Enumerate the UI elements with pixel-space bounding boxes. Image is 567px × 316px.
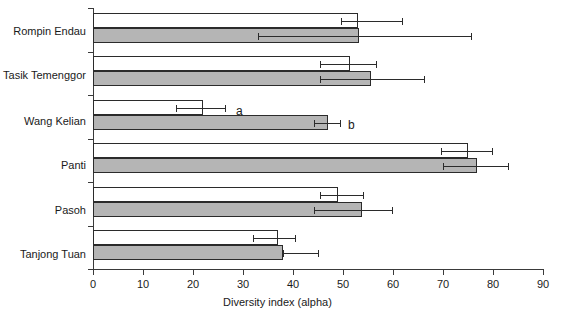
- xtick-mark-90: [543, 270, 544, 275]
- annotation-a: a: [236, 105, 243, 117]
- xtick-mark-20: [193, 270, 194, 275]
- xtick-mark-0: [93, 270, 94, 275]
- xtick-mark-80: [493, 270, 494, 275]
- xtick-mark-40: [293, 270, 294, 275]
- error-bar-cap: [225, 105, 226, 112]
- error-bar-cap: [471, 33, 472, 40]
- error-bar-line: [320, 79, 424, 80]
- error-bar-cap: [492, 148, 493, 155]
- error-bar-cap: [402, 18, 403, 25]
- bar-rompin-endau-white: [93, 13, 358, 28]
- ytick-mark-6: [88, 269, 93, 270]
- ytick-mark-3: [88, 139, 93, 140]
- chart-container: Rompin Endau Tasik Temenggor Wang Kelian…: [0, 0, 567, 316]
- xtick-mark-70: [443, 270, 444, 275]
- error-bar-cap: [340, 120, 341, 127]
- error-bar-cap: [424, 76, 425, 83]
- bar-pasoh-white: [93, 187, 338, 202]
- xtick-mark-50: [343, 270, 344, 275]
- xtick-label-10: 10: [128, 278, 158, 290]
- ytick-mark-2: [88, 95, 93, 96]
- error-bar-line: [314, 210, 392, 211]
- error-bar-cap: [320, 76, 321, 83]
- error-bar-cap: [314, 120, 315, 127]
- x-axis-title: Diversity index (alpha): [223, 296, 332, 308]
- xtick-mark-30: [243, 270, 244, 275]
- error-bar-cap: [392, 207, 393, 214]
- xtick-label-60: 60: [378, 278, 408, 290]
- xtick-label-80: 80: [478, 278, 508, 290]
- error-bar-line: [176, 108, 225, 109]
- bar-panti-gray: [93, 158, 477, 173]
- error-bar-line: [314, 123, 340, 124]
- xtick-label-90: 90: [528, 278, 558, 290]
- annotation-b: b: [348, 119, 355, 131]
- error-bar-cap: [320, 192, 321, 199]
- error-bar-cap: [283, 250, 284, 257]
- error-bar-cap: [176, 105, 177, 112]
- bar-tasik-temenggor-white: [93, 56, 350, 71]
- ytick-mark-0: [88, 8, 93, 9]
- error-bar-cap: [363, 192, 364, 199]
- error-bar-cap: [320, 61, 321, 68]
- xtick-label-30: 30: [228, 278, 258, 290]
- bar-tanjong-tuan-gray: [93, 245, 283, 260]
- error-bar-line: [341, 21, 403, 22]
- xtick-mark-10: [143, 270, 144, 275]
- ytick-mark-4: [88, 182, 93, 183]
- error-bar-line: [253, 238, 295, 239]
- xtick-label-70: 70: [428, 278, 458, 290]
- xtick-label-50: 50: [328, 278, 358, 290]
- ytick-mark-1: [88, 52, 93, 53]
- bar-panti-white: [93, 143, 468, 158]
- error-bar-cap: [318, 250, 319, 257]
- error-bar-cap: [508, 163, 509, 170]
- error-bar-cap: [441, 148, 442, 155]
- error-bar-cap: [253, 235, 254, 242]
- error-bar-line: [320, 195, 363, 196]
- error-bar-line: [441, 151, 493, 152]
- bar-tanjong-tuan-white: [93, 230, 278, 245]
- error-bar-line: [283, 253, 318, 254]
- error-bar-line: [443, 166, 508, 167]
- xtick-label-20: 20: [178, 278, 208, 290]
- error-bar-line: [320, 64, 376, 65]
- error-bar-cap: [376, 61, 377, 68]
- x-axis-line: [93, 269, 544, 270]
- xtick-label-0: 0: [78, 278, 108, 290]
- error-bar-cap: [258, 33, 259, 40]
- plot-area: [0, 0, 567, 316]
- bar-wang-kelian-gray: [93, 115, 328, 130]
- error-bar-cap: [443, 163, 444, 170]
- error-bar-cap: [314, 207, 315, 214]
- xtick-mark-60: [393, 270, 394, 275]
- error-bar-cap: [341, 18, 342, 25]
- error-bar-cap: [295, 235, 296, 242]
- ytick-mark-5: [88, 226, 93, 227]
- error-bar-line: [258, 36, 471, 37]
- xtick-label-40: 40: [278, 278, 308, 290]
